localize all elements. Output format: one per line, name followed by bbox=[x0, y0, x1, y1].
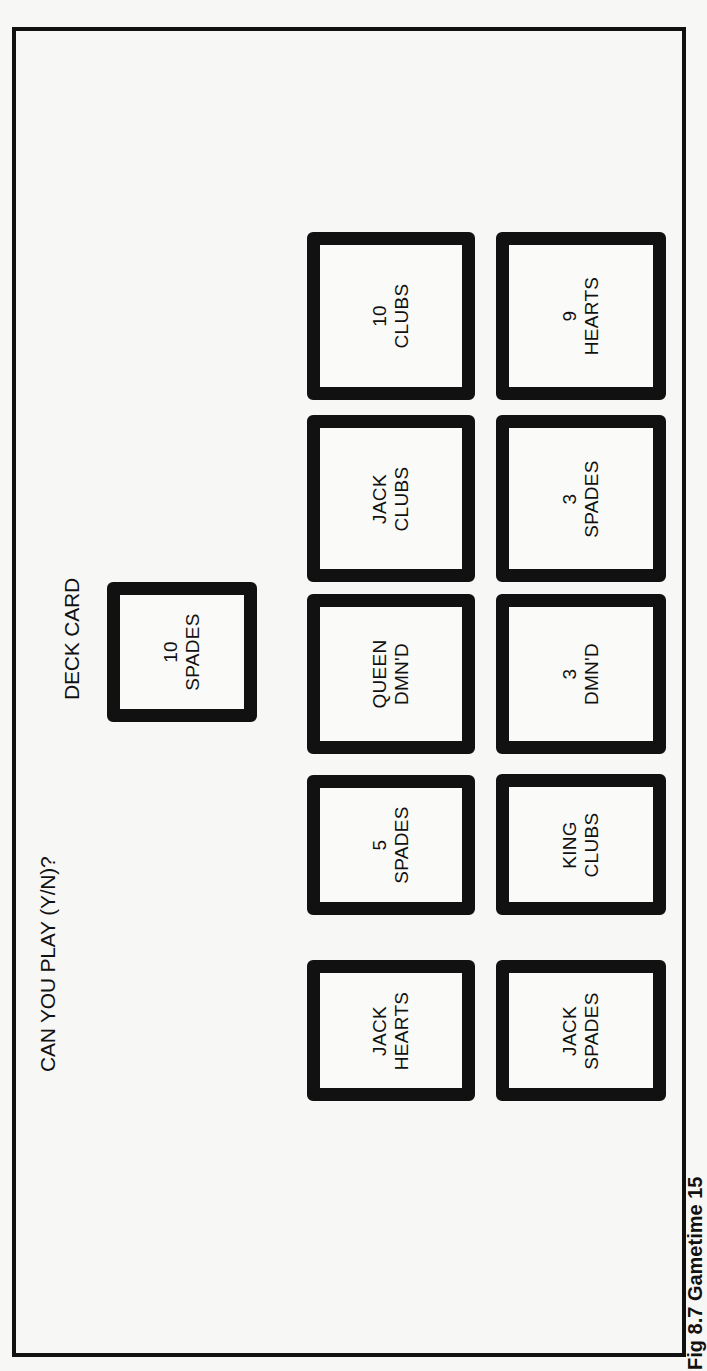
deck-card-label: DECK CARD bbox=[60, 578, 84, 700]
hand-card-3[interactable]: JACK CLUBS bbox=[307, 415, 475, 582]
card-rank: JACK bbox=[369, 466, 391, 531]
card-suit: CLUBS bbox=[581, 812, 603, 877]
card-suit: HEARTS bbox=[581, 277, 603, 356]
play-prompt: CAN YOU PLAY (Y/N)? bbox=[36, 856, 60, 1072]
card-rank: QUEEN bbox=[369, 639, 391, 708]
card-suit: SPADES bbox=[581, 992, 603, 1069]
card-suit: SPADES bbox=[182, 613, 204, 690]
card-rank: 10 bbox=[369, 284, 391, 349]
card-suit: DMN'D bbox=[391, 639, 413, 708]
hand-card-9[interactable]: JACK HEARTS bbox=[307, 960, 475, 1101]
hand-card-10[interactable]: JACK SPADES bbox=[496, 960, 666, 1101]
figure-caption: Fig 8.7 Gametime 15 bbox=[684, 1177, 707, 1370]
card-rank: 3 bbox=[559, 643, 581, 705]
hand-card-8[interactable]: KING CLUBS bbox=[496, 774, 666, 915]
card-rank: JACK bbox=[369, 991, 391, 1070]
card-rank: KING bbox=[559, 812, 581, 877]
hand-card-2[interactable]: 9 HEARTS bbox=[496, 232, 666, 400]
card-suit: SPADES bbox=[581, 460, 603, 537]
card-rank: 10 bbox=[160, 613, 182, 690]
card-suit: CLUBS bbox=[391, 284, 413, 349]
card-rank: JACK bbox=[559, 992, 581, 1069]
hand-card-1[interactable]: 10 CLUBS bbox=[307, 232, 475, 400]
hand-card-7[interactable]: 5 SPADES bbox=[307, 775, 475, 915]
card-rank: 3 bbox=[559, 460, 581, 537]
card-suit: HEARTS bbox=[391, 991, 413, 1070]
card-rank: 5 bbox=[369, 806, 391, 883]
card-suit: CLUBS bbox=[391, 466, 413, 531]
card-rank: 9 bbox=[559, 277, 581, 356]
hand-card-6[interactable]: 3 DMN'D bbox=[496, 594, 666, 754]
card-suit: SPADES bbox=[391, 806, 413, 883]
card-suit: DMN'D bbox=[581, 643, 603, 705]
hand-card-5[interactable]: QUEEN DMN'D bbox=[307, 594, 475, 754]
deck-card[interactable]: 10 SPADES bbox=[107, 582, 257, 722]
hand-card-4[interactable]: 3 SPADES bbox=[496, 415, 666, 582]
